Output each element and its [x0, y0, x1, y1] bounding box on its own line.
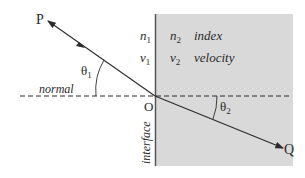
interface-label: interface	[140, 121, 152, 164]
point-label-q: Q	[284, 143, 294, 157]
v1-subscript: 1	[146, 57, 151, 67]
medium2-velocity: v2	[170, 51, 180, 67]
v2-subscript: 2	[176, 57, 181, 67]
n2-subscript: 2	[177, 35, 182, 45]
theta2-label: θ2	[220, 100, 231, 116]
medium1-index: n1	[140, 29, 151, 45]
normal-label: normal	[39, 83, 74, 95]
medium2-index-desc: index	[194, 29, 222, 42]
incident-direction-arrow	[76, 42, 85, 48]
medium2-index: n2	[170, 29, 181, 45]
theta1-label: θ1	[81, 64, 92, 80]
point-label-p: P	[36, 13, 44, 27]
point-label-o: O	[144, 100, 153, 113]
medium1-velocity: v1	[140, 51, 150, 67]
theta1-arc	[96, 60, 104, 96]
theta1-subscript: 1	[87, 70, 92, 80]
refraction-diagram: P O Q normal interface θ1 θ2 n1 v1 n2 in…	[0, 0, 305, 178]
n1-subscript: 1	[147, 35, 152, 45]
medium2-velocity-desc: velocity	[194, 51, 234, 64]
theta2-subscript: 2	[226, 106, 231, 116]
